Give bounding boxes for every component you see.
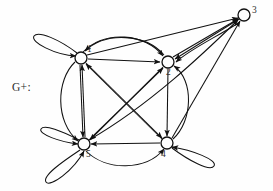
edge-3-to-2-second: [176, 22, 240, 62]
edge-1-to-5-arc: [61, 62, 78, 141]
figure-canvas: G+:: [0, 0, 273, 191]
self-loop-node-1: [34, 34, 77, 56]
directed-graph: [0, 0, 273, 191]
edge-4-to-2-arc: [173, 66, 189, 139]
node-label-5: 5: [86, 149, 91, 159]
edge-4-to-1-diagonal: [86, 64, 162, 139]
edge-1-to-4-diagonal: [86, 63, 162, 138]
edge-layer: [34, 18, 240, 183]
node-label-4: 4: [161, 149, 166, 159]
self-loop-node-4: [172, 147, 214, 168]
edge-1-to-2: [88, 59, 160, 62]
edge-4-to-3: [172, 21, 240, 138]
edge-4-to-5-straight: [91, 143, 160, 144]
node-4[interactable]: [161, 137, 173, 149]
node-3[interactable]: [238, 9, 250, 21]
node-label-3: 3: [252, 5, 257, 15]
node-1[interactable]: [75, 52, 87, 64]
edge-5-to-4-arc: [86, 149, 164, 166]
self-loop-node-5: [45, 150, 84, 183]
edge-2-to-4-straight: [167, 69, 168, 136]
node-label-1: 1: [87, 44, 92, 54]
node-label-2: 2: [166, 67, 171, 77]
